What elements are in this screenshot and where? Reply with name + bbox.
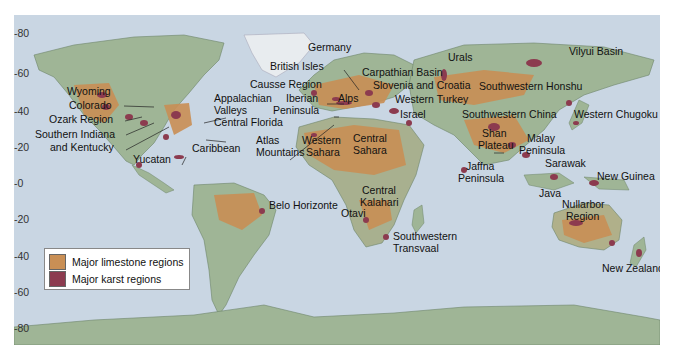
region-label: Kalahari <box>360 196 399 208</box>
region-label: Iberian <box>286 92 318 104</box>
region-label: Nullarbor <box>562 198 605 210</box>
region-label: Peninsula <box>273 104 319 116</box>
region-label: Urals <box>448 51 473 63</box>
region-label: Southwestern China <box>462 108 557 120</box>
lat-tick: 20 <box>14 213 29 225</box>
region-label: Colorado <box>69 99 112 111</box>
region-label: Sahara <box>306 146 340 158</box>
region-label: Sarawak <box>545 157 586 169</box>
lat-tick: 60 <box>14 286 29 298</box>
region-label: Central <box>362 184 396 196</box>
region-label: Vilyui Basin <box>569 45 623 57</box>
lat-tick: 60 <box>14 67 29 79</box>
region-label: Java <box>539 187 561 199</box>
region-label: Central <box>353 132 387 144</box>
region-label: Sahara <box>353 144 387 156</box>
region-label: Southwestern Honshu <box>479 80 582 92</box>
region-label: and Kentucky <box>50 141 114 153</box>
region-label: Transvaal <box>393 242 439 254</box>
region-label: Valleys <box>214 104 247 116</box>
legend-label: Major karst regions <box>72 273 161 285</box>
region-label: Southern Indiana <box>35 128 115 140</box>
lat-tick: 20 <box>14 141 29 153</box>
karst-swatch <box>49 271 66 287</box>
region-label: Otavi <box>341 207 366 219</box>
lat-tick: 0 <box>14 177 23 189</box>
region-label: Atlas <box>256 134 279 146</box>
region-label: Caribbean <box>192 142 240 154</box>
region-label: Peninsula <box>458 172 504 184</box>
region-label: Region <box>566 210 599 222</box>
region-label: Israel <box>400 108 426 120</box>
region-label: New Zealand <box>602 262 660 274</box>
limestone-swatch <box>49 254 66 270</box>
region-label: Western <box>302 134 341 146</box>
region-label: Wyoming <box>67 85 111 97</box>
region-label: Western Turkey <box>395 93 468 105</box>
region-label: Causse Region <box>250 78 322 90</box>
lat-tick: 40 <box>14 105 29 117</box>
region-label: Yucatan <box>133 153 171 165</box>
region-label: Belo Horizonte <box>269 199 338 211</box>
world-map: 80 60 40 20 0 20 40 60 80 WyomingColorad… <box>14 15 660 345</box>
region-label: Jaffna <box>466 160 494 172</box>
legend-item-limestone: Major limestone regions <box>49 254 183 270</box>
region-label: Malay <box>527 132 555 144</box>
legend-label: Major limestone regions <box>72 256 183 268</box>
region-label: Slovenia and Croatia <box>373 79 470 91</box>
region-label: Central Florida <box>214 116 283 128</box>
legend: Major limestone regions Major karst regi… <box>44 248 190 290</box>
region-label: Ozark Region <box>49 113 113 125</box>
region-label: Southwestern <box>393 230 457 242</box>
region-label: Carpathian Basin <box>362 66 443 78</box>
region-label: Alps <box>338 92 358 104</box>
region-label: British Isles <box>270 60 324 72</box>
map-landmasses <box>14 15 660 345</box>
lat-tick: 80 <box>14 27 29 39</box>
lat-tick: 80 <box>14 322 29 334</box>
legend-item-karst: Major karst regions <box>49 271 161 287</box>
lat-tick: 40 <box>14 250 29 262</box>
region-label: Appalachian <box>214 92 272 104</box>
region-label: Germany <box>308 41 351 53</box>
region-label: Western Chugoku <box>574 108 658 120</box>
region-label: Shan <box>482 127 507 139</box>
region-label: New Guinea <box>597 170 655 182</box>
region-label: Peninsula <box>519 144 565 156</box>
region-label: Mountains <box>256 146 304 158</box>
region-label: Plateau <box>478 139 514 151</box>
